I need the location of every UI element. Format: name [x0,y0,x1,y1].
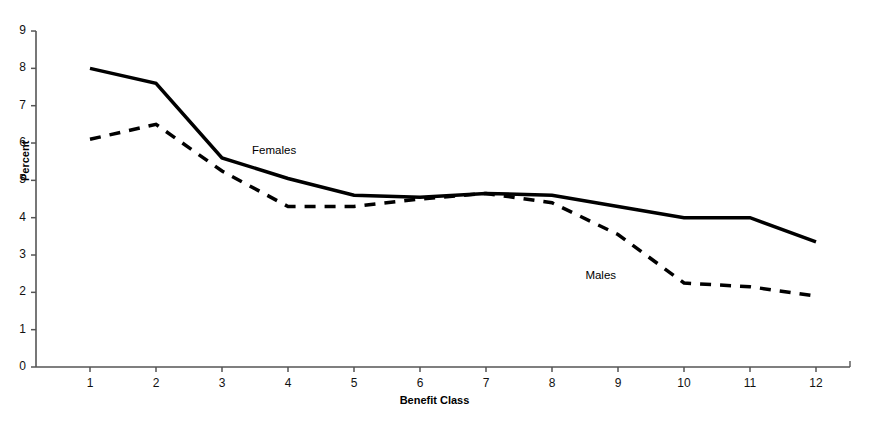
y-axis-tick-label: 7 [4,98,26,112]
y-axis-tick-label: 1 [4,322,26,336]
x-axis-title: Benefit Class [0,394,869,406]
y-axis-tick-label: 9 [4,23,26,37]
y-axis-tick-label: 2 [4,284,26,298]
y-axis-tick-label: 3 [4,247,26,261]
x-axis-tick-label: 7 [471,376,501,390]
series-line-males [90,124,816,296]
x-axis-tick-label: 9 [603,376,633,390]
x-axis-tick-label: 10 [669,376,699,390]
x-axis-tick-label: 3 [207,376,237,390]
x-axis-tick-label: 11 [735,376,765,390]
y-axis-tick-label: 4 [4,210,26,224]
x-axis-tick-label: 1 [75,376,105,390]
x-axis-tick-label: 12 [801,376,831,390]
x-axis-tick-label: 8 [537,376,567,390]
series-label-males: Males [585,269,616,281]
series-layer [90,68,816,296]
x-axis-tick-label: 5 [339,376,369,390]
y-axis-tick-label: 0 [4,359,26,373]
x-axis-tick-label: 4 [273,376,303,390]
x-axis-tick-label: 6 [405,376,435,390]
chart-plot-area [0,0,869,430]
y-axis-tick-label: 5 [4,172,26,186]
y-axis-tick-label: 6 [4,135,26,149]
series-label-females: Females [252,144,296,156]
chart-container: Percent Benefit Class 012345678912345678… [0,0,869,430]
x-axis-tick-label: 2 [141,376,171,390]
y-axis-tick-label: 8 [4,60,26,74]
